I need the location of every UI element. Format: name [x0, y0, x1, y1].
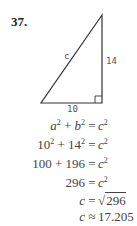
equation-rhs: c2 [98, 175, 108, 191]
equation-lhs: 100 + 196 [32, 156, 85, 172]
equation-lhs: c [79, 193, 85, 209]
horizontal-leg-label: 10 [67, 104, 78, 114]
right-triangle-figure: c 14 10 [0, 0, 137, 120]
equals-sign: = [87, 118, 97, 134]
equation-line-6: c ≈ 17.205 [0, 209, 137, 226]
equals-sign: = [87, 193, 97, 209]
square-root-icon: √296 [98, 193, 126, 209]
equation-line-3: 100 + 196 = c2 [0, 156, 137, 174]
equals-sign: = [87, 156, 97, 172]
equation-rhs: c2 [98, 137, 108, 153]
equation-rhs: c2 [98, 156, 108, 172]
vertical-leg-label: 14 [106, 56, 117, 66]
equation-rhs: c2 [98, 118, 108, 134]
equals-sign: = [87, 137, 97, 153]
equals-sign: = [87, 175, 97, 191]
equation-lhs: 102 + 142 [37, 137, 85, 153]
equation-rhs: 17.205 [98, 209, 134, 225]
approx-sign: ≈ [87, 209, 97, 225]
equation-line-1: a2 + b2 = c2 [0, 118, 137, 136]
equation-line-4: 296 = c2 [0, 175, 137, 193]
triangle-shape [41, 15, 102, 103]
equation-lhs: c [79, 209, 85, 225]
equation-line-2: 102 + 142 = c2 [0, 137, 137, 155]
equation-lhs: 296 [66, 175, 86, 191]
right-angle-marker-icon [95, 96, 102, 103]
equation-lhs: a2 + b2 [50, 118, 85, 134]
equation-rhs: √296 [98, 193, 126, 209]
hypotenuse-label: c [64, 51, 69, 61]
